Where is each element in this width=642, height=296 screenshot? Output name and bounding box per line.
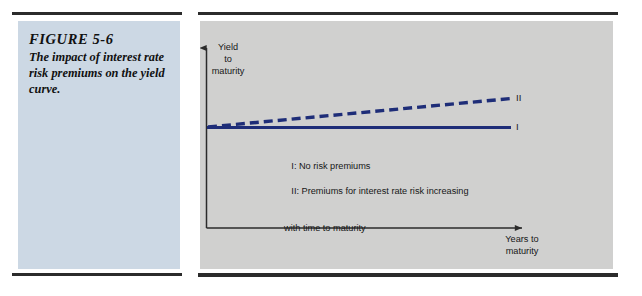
legend-line-1: I: No risk premiums [291,161,370,171]
caption-inner: FIGURE 5-6 The impact of interest rate r… [29,30,171,97]
chart-legend: I: No risk premiums II: Premiums for int… [276,147,506,260]
caption-top-rule [12,12,182,15]
caption-bottom-rule [12,273,182,276]
legend-line-2: II: Premiums for interest rate risk incr… [291,186,468,196]
figure-top-rule [198,12,618,15]
figure-number: FIGURE 5-6 [29,30,171,48]
caption-panel: FIGURE 5-6 The impact of interest rate r… [18,21,180,269]
curve-ii-risk-premiums [208,99,511,128]
curve-tag-ii: II [516,92,521,103]
figure-caption-text: The impact of interest rate risk premium… [29,50,171,97]
curve-tag-i: I [516,121,519,132]
figure-exhibit: FIGURE 5-6 The impact of interest rate r… [0,0,642,296]
figure-panel: Yield to maturity Years to maturity II I… [200,21,613,269]
y-axis-label: Yield to maturity [200,42,256,78]
legend-line-3: with time to maturity [276,222,506,235]
figure-bottom-rule [198,273,618,277]
